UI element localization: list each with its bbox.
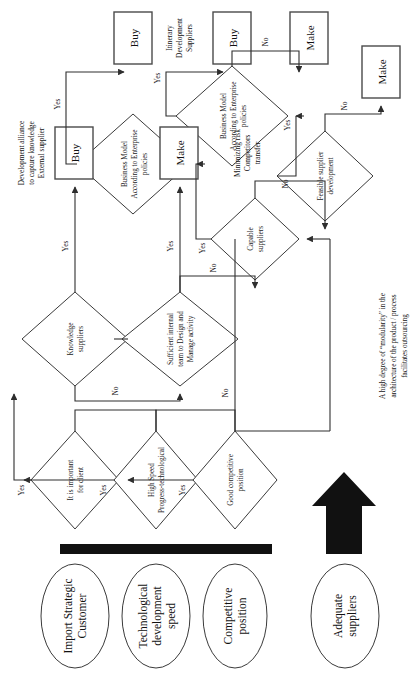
label-d7-no: No [340,101,349,110]
label-d6-yes: Yes [198,243,207,254]
decision-capable-suppliers: Capable suppliers [211,198,299,280]
buy3-label: Buy [227,28,239,47]
make1-label: Make [174,140,186,165]
note-make1-line2: Competitors [243,135,252,172]
footnote-line1: A high degree of “modularity” in the [379,293,387,399]
label-d3-yes: Yes [178,485,187,496]
terminal-make-3: Make [362,46,400,98]
label-d2-yes: Yes [99,485,108,496]
d6-line1: Capable [247,227,255,251]
buy2-label: Buy [128,28,140,47]
make3-label: Make [376,59,388,84]
edge-d4-no [75,386,180,401]
oval3-line1: Competitive [222,588,235,645]
oval2-line3: speed [165,603,178,629]
annotation-development-alliance: Development alliance to capture knowledg… [17,120,46,185]
oval3-line2: position [236,597,249,634]
terminal-make-2: Make [290,12,328,64]
label-d3-no: No [221,388,230,397]
label-d5-yes: Yes [166,241,175,252]
label-d4-yes: Yes [61,241,70,252]
edge-d5-no-d6 [180,276,255,292]
make2-label: Make [304,25,316,50]
d7-line1: Feasible supplier [317,151,325,201]
oval2-line2: development [151,586,164,646]
edge-d1-yes [14,394,31,480]
d4-line2: suppliers [77,326,85,352]
footnote-line2: architecture of the product / process [390,294,398,397]
d8-line3: policies [141,153,149,176]
note-make1-line1: Minimizing risk [233,129,242,177]
label-d1-yes: Yes [17,485,26,496]
buy1-label: Buy [69,143,81,162]
note-buy3-line3: Suppliers [185,24,194,52]
note-buy1-line1: Development alliance [17,120,26,185]
terminal-make-1: Make [160,127,198,179]
d3-line1: Good competitive [227,454,235,506]
d5-line1: Sufficient internal [167,313,175,365]
label-d9-yes: Yes [153,73,162,84]
note-buy1-line3: External supplier [37,127,46,178]
note-buy1-line2: to capture knowledge [27,120,36,184]
d8-line2: According to Enterprise [131,129,139,198]
note-buy3-line1: Itinerary [165,25,174,51]
oval2-line1: Technological [137,584,150,649]
d9-line3: policies [240,105,248,128]
flowchart-svg: Import Strategic Customer Technological … [0,0,420,676]
label-d6-no: No [281,179,290,188]
d6-line2: suppliers [257,226,265,252]
label-d8-yes: Yes [53,99,62,110]
figure-stage: Import Strategic Customer Technological … [0,0,420,676]
note-make1-line3: transfer [253,141,262,164]
annotation-itinerary-development-suppliers: Itinerary Development Suppliers [165,17,194,58]
oval1-line2: Customer [76,593,88,638]
edge-d7-no-make3 [325,106,381,131]
decision-good-competitive-position: Good competitive position [193,431,277,529]
decision-sufficient-internal-team: Sufficient internal team to Design and M… [122,292,238,386]
input-oval-competitive-position: Competitive position [203,564,267,668]
footnote-group: A high degree of “modularity” in the arc… [379,293,409,399]
edge-d2-d3 [156,410,235,431]
figure-canvas: Import Strategic Customer Technological … [0,0,420,676]
footnote-line3: facilitates outsourcing [401,314,409,378]
input-oval-technological-development-speed: Technological development speed [122,564,190,668]
oval4-line1: Adequate [332,594,345,638]
d8-line1: Business Model [121,141,129,187]
decision-knowledge-suppliers: Knowledge suppliers [22,292,128,386]
note-buy3-line2: Development [175,17,184,58]
label-d7-yes: Yes [283,120,292,131]
d7-line2: development [327,157,335,194]
emphasis-arrow-icon [312,472,376,554]
oval1-line1: Import Strategic [62,578,75,653]
d9-line1: Business Model [220,93,228,139]
d3-line2: position [237,468,245,492]
d5-line3: Manage activity [187,315,195,362]
input-oval-import-strategic-customer: Import Strategic Customer [41,564,109,668]
oval4-line2: suppliers [346,595,359,637]
d5-line2: team to Design and [177,311,185,367]
terminal-buy-2: Buy [114,12,152,64]
edge-labels-group: Yes Yes Yes No Yes No Yes No Yes No Yes … [17,37,349,495]
emphasis-bar [60,544,272,554]
label-d5-no: No [209,263,218,272]
label-d4-no: No [111,386,120,395]
edge-d1-d2 [75,410,156,431]
input-ovals-group: Import Strategic Customer Technological … [41,564,379,668]
terminal-buy-1: Buy [55,127,93,179]
input-oval-adequate-suppliers: Adequate suppliers [311,564,379,668]
label-d9-no: No [261,37,270,46]
d4-line1: Knowledge [67,322,75,355]
